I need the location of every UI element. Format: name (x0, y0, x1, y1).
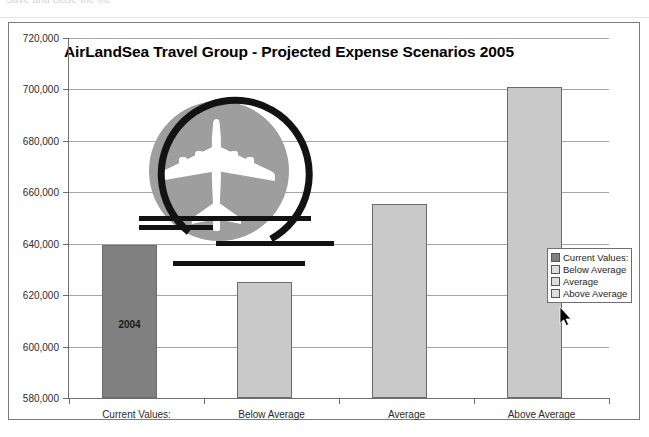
x-tick-mark (204, 398, 205, 404)
legend-item-above-average[interactable]: Above Average (551, 287, 628, 299)
legend-label: Average (563, 276, 598, 287)
x-tick-label-current-values: Current Values: (69, 409, 204, 420)
y-tick-label: 700,000 (11, 84, 59, 95)
legend-label: Current Values: (563, 252, 628, 263)
x-tick-mark (69, 398, 70, 404)
y-tick-label: 620,000 (11, 290, 59, 301)
chart-legend[interactable]: Current Values: Below Average Average Ab… (547, 248, 632, 303)
chart-object[interactable]: AirLandSea Travel Group - Projected Expe… (8, 22, 640, 420)
y-tick-label: 680,000 (11, 136, 59, 147)
legend-swatch-icon (551, 277, 560, 286)
document-top-strip: Save and close the file (0, 0, 649, 20)
bar-average[interactable] (372, 204, 427, 398)
gridline (69, 38, 609, 39)
legend-item-current-values[interactable]: Current Values: (551, 251, 628, 263)
y-axis-line (68, 38, 69, 399)
bar-below-average[interactable] (237, 282, 292, 398)
bar-above-average[interactable] (507, 87, 562, 398)
y-tick-label: 640,000 (11, 239, 59, 250)
top-divider (0, 17, 649, 18)
legend-swatch-icon (551, 289, 560, 298)
x-tick-mark (609, 398, 610, 404)
x-tick-mark (339, 398, 340, 404)
legend-item-average[interactable]: Average (551, 275, 628, 287)
legend-swatch-icon (551, 253, 560, 262)
y-tick-label: 580,000 (11, 393, 59, 404)
ghost-toolbar-text: Save and close the file (6, 0, 111, 5)
legend-label: Above Average (563, 288, 627, 299)
legend-item-below-average[interactable]: Below Average (551, 263, 628, 275)
mouse-cursor-icon (559, 307, 573, 327)
legend-label: Below Average (563, 264, 626, 275)
bar-current-values[interactable]: 2004 (102, 245, 157, 398)
legend-swatch-icon (551, 265, 560, 274)
x-tick-mark (474, 398, 475, 404)
x-tick-label-average: Average (339, 409, 474, 420)
y-tick-label: 660,000 (11, 187, 59, 198)
x-tick-label-above-average: Above Average (474, 409, 609, 420)
y-tick-label: 600,000 (11, 342, 59, 353)
y-tick-label: 720,000 (11, 33, 59, 44)
bar-data-label-2004: 2004 (103, 319, 156, 330)
chart-title: AirLandSea Travel Group - Projected Expe… (64, 43, 514, 61)
x-tick-label-below-average: Below Average (204, 409, 339, 420)
cursor-arrow-icon (559, 307, 573, 327)
